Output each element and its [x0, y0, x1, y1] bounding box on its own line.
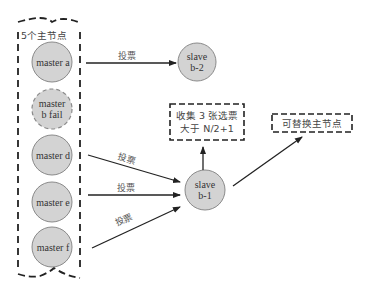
edge-f-to-b1 [92, 207, 180, 248]
slave-b1-label: slave b-1 [188, 179, 222, 201]
slave-b2-label: slave b-2 [180, 51, 214, 73]
master-group-title: 5个主节点 [21, 31, 67, 41]
replace-master-text: 可替换主节点 [272, 117, 352, 130]
master-e-label: master e [32, 196, 74, 208]
slave-b1-line1: slave [195, 179, 216, 190]
slave-b2-line1: slave [187, 51, 208, 62]
master-b-fail-label: master b fail [32, 98, 72, 120]
master-f-label: master f [32, 241, 74, 253]
vote-label-e: 投票 [117, 181, 135, 194]
vote-label-a: 投票 [118, 49, 136, 62]
master-a-label: master a [32, 56, 74, 68]
slave-b2-line2: b-2 [190, 62, 203, 73]
master-b-line2: b fail [42, 109, 63, 120]
edge-b1-to-replace [233, 137, 302, 186]
collect-votes-line1: 收集 3 张选票 [171, 109, 243, 122]
collect-votes-text: 收集 3 张选票 大于 N/2+1 [171, 109, 243, 135]
master-d-label: master d [32, 149, 74, 161]
master-b-line1: master [39, 98, 66, 109]
collect-votes-line2: 大于 N/2+1 [171, 122, 243, 135]
slave-b1-line2: b-1 [198, 190, 211, 201]
